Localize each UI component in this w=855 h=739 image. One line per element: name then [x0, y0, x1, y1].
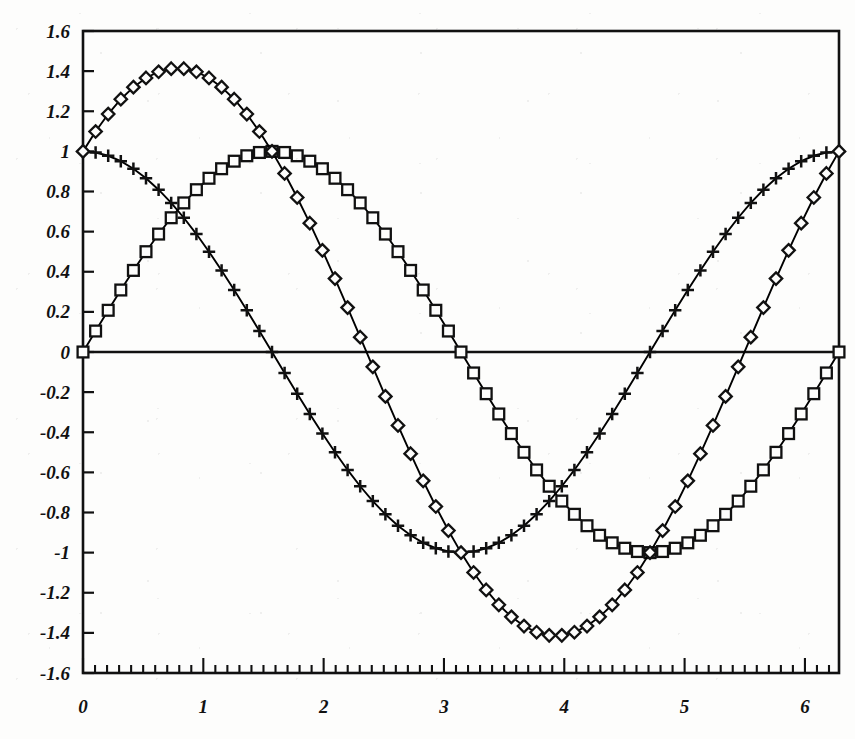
data-point-marker: [430, 305, 441, 316]
data-point-marker: [166, 212, 177, 223]
data-point-marker: [783, 428, 794, 439]
data-point-marker: [606, 408, 618, 420]
data-point-marker: [330, 173, 341, 184]
data-point-marker: [682, 475, 694, 487]
x-axis-tick-label: 4: [559, 696, 570, 717]
data-point-marker: [152, 66, 164, 78]
data-point-marker: [442, 524, 454, 536]
data-point-marker: [316, 427, 328, 439]
data-point-marker: [216, 163, 227, 174]
x-axis-tick-label: 5: [680, 696, 690, 717]
data-point-marker: [834, 347, 845, 358]
x-axis-tick-label: 2: [318, 696, 329, 717]
data-point-marker: [544, 481, 555, 492]
data-point-marker: [796, 409, 807, 420]
data-point-marker: [682, 284, 694, 296]
data-point-marker: [732, 361, 744, 373]
data-point-marker: [770, 272, 782, 284]
data-point-marker: [291, 388, 303, 400]
data-point-marker: [418, 285, 429, 296]
data-point-marker: [619, 388, 631, 400]
data-point-marker: [467, 566, 479, 578]
data-point-marker: [141, 246, 152, 257]
data-point-marker: [530, 626, 542, 638]
data-point-marker: [393, 246, 404, 257]
x-axis-tick-label: 3: [438, 696, 449, 717]
data-point-marker: [404, 447, 416, 459]
data-point-marker: [733, 496, 744, 507]
data-point-marker: [405, 265, 416, 276]
data-point-marker: [203, 245, 215, 257]
data-point-marker: [808, 388, 819, 399]
data-point-marker: [329, 272, 341, 284]
data-point-marker: [569, 509, 580, 520]
data-point-marker: [593, 427, 605, 439]
data-point-marker: [695, 530, 706, 541]
data-point-marker: [556, 629, 568, 641]
data-point-marker: [228, 284, 240, 296]
data-point-marker: [708, 520, 719, 531]
data-point-marker: [720, 509, 731, 520]
data-point-marker: [430, 542, 442, 554]
y-axis-tick-label: 1.6: [46, 21, 70, 42]
y-axis-tick-label: 1.4: [46, 61, 70, 82]
data-point-marker: [782, 244, 794, 256]
data-point-marker: [241, 150, 252, 161]
data-point-marker: [367, 212, 378, 223]
data-point-marker: [644, 346, 656, 358]
data-point-marker: [253, 325, 265, 337]
data-point-marker: [694, 264, 706, 276]
data-point-marker: [669, 304, 681, 316]
data-point-marker: [632, 546, 643, 557]
y-axis-tick-label: -1: [54, 542, 70, 563]
data-point-marker: [619, 543, 630, 554]
data-point-marker: [253, 125, 265, 137]
data-point-marker: [292, 150, 303, 161]
data-point-marker: [745, 331, 757, 343]
data-point-marker: [556, 496, 567, 507]
data-point-marker: [229, 156, 240, 167]
y-axis-tick-label: -1.4: [40, 622, 70, 643]
data-point-marker: [342, 184, 353, 195]
data-point-marker: [670, 543, 681, 554]
data-point-marker: [656, 325, 668, 337]
data-point-marker: [417, 537, 429, 549]
y-axis-tick-label: 1.2: [46, 101, 70, 122]
data-point-marker: [103, 305, 114, 316]
data-point-marker: [631, 367, 643, 379]
data-point-marker: [669, 500, 681, 512]
data-point-marker: [278, 167, 290, 179]
data-point-marker: [657, 546, 668, 557]
data-point-marker: [758, 465, 769, 476]
data-point-marker: [355, 198, 366, 209]
data-point-marker: [519, 447, 530, 458]
data-point-marker: [455, 546, 467, 558]
data-point-marker: [204, 173, 215, 184]
data-point-marker: [178, 62, 190, 74]
data-point-marker: [254, 147, 265, 158]
data-point-marker: [795, 155, 807, 167]
data-point-marker: [316, 244, 328, 256]
data-point-marker: [115, 285, 126, 296]
data-point-marker: [430, 500, 442, 512]
y-axis-tick-label: 1: [61, 141, 71, 162]
data-point-marker: [820, 167, 832, 179]
data-point-marker: [631, 566, 643, 578]
x-axis-tick-label: 6: [800, 696, 810, 717]
data-point-marker: [304, 217, 316, 229]
data-point-marker: [682, 537, 693, 548]
data-point-marker: [594, 530, 605, 541]
x-axis-tick-label: 1: [199, 696, 209, 717]
data-point-marker: [543, 629, 555, 641]
data-point-marker: [719, 390, 731, 402]
data-point-marker: [467, 545, 479, 557]
data-point-marker: [506, 428, 517, 439]
data-point-marker: [165, 62, 177, 74]
data-point-marker: [707, 419, 719, 431]
data-point-marker: [795, 217, 807, 229]
y-axis-tick-label: -0.8: [40, 502, 71, 523]
chart-figure: 1.61.41.210.80.60.40.20-0.2-0.4-0.6-0.8-…: [0, 0, 855, 739]
data-point-marker: [354, 331, 366, 343]
data-point-marker: [278, 367, 290, 379]
data-point-marker: [808, 191, 820, 203]
